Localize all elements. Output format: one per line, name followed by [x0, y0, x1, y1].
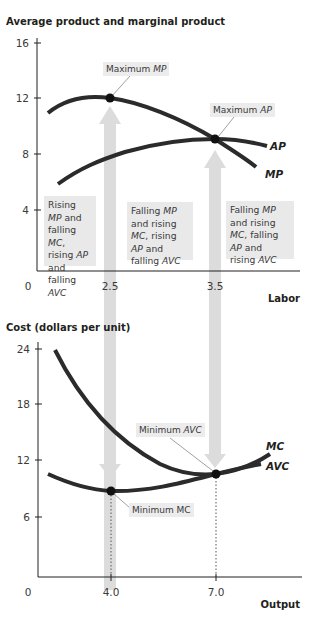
top-x-tick-3-5: 3.5: [207, 280, 224, 292]
min-mc-point: [107, 487, 116, 496]
max-ap-point: [211, 135, 220, 144]
bottom-y-ticks: [35, 349, 216, 581]
chart-canvas: Average product and marginal product 16 …: [0, 0, 323, 631]
bottom-x-tick-7-0: 7.0: [208, 586, 225, 598]
bottom-y-tick-24: 24: [17, 343, 31, 355]
link-arrows: [99, 106, 226, 590]
ap-curve-label: AP: [269, 140, 286, 152]
bottom-y-tick-6: 6: [23, 511, 30, 523]
bottom-x-zero: 0: [25, 586, 32, 598]
bottom-x-tick-4-0: 4.0: [103, 586, 120, 598]
region-box-left: Rising MP and falling MC, rising AP and …: [44, 196, 96, 266]
mp-curve-label: MP: [265, 168, 283, 180]
top-y-tick-4: 4: [22, 204, 29, 216]
top-y-tick-8: 8: [22, 148, 29, 160]
callout-maximum-mp: Maximum MP: [103, 62, 169, 76]
region-box-middle: Falling MP and rising MC, rising AP and …: [127, 202, 193, 260]
avc-curve-label: AVC: [265, 460, 290, 472]
callout-maximum-ap: Maximum AP: [210, 103, 275, 117]
arrow-up-head-right: [204, 150, 226, 168]
top-y-tick-12: 12: [16, 92, 29, 104]
bottom-chart-title: Cost (dollars per unit): [6, 322, 130, 333]
arrow-shaft-left: [104, 120, 116, 590]
bottom-y-tick-18: 18: [17, 398, 30, 410]
max-mp-point: [106, 94, 115, 103]
arrow-down-head-left: [99, 464, 121, 478]
min-avc-point: [212, 470, 221, 479]
arrow-shaft-right: [209, 165, 221, 440]
callout-minimum-mc: Minimum MC: [129, 503, 194, 517]
callout-minimum-avc: Minimum AVC: [136, 423, 205, 437]
top-chart-title: Average product and marginal product: [6, 16, 225, 27]
top-y-tick-16: 16: [16, 37, 30, 49]
bottom-y-tick-12: 12: [17, 454, 30, 466]
mc-curve-label: MC: [266, 440, 284, 452]
arrow-down-head-right: [204, 454, 226, 468]
mc-curve: [55, 350, 270, 475]
bottom-x-axis-label: Output: [261, 599, 301, 610]
top-x-zero: 0: [25, 280, 32, 292]
top-x-tick-2-5: 2.5: [102, 280, 119, 292]
max-mp-leader: [112, 76, 130, 96]
arrow-up-head-left: [99, 106, 121, 124]
avc-curve: [48, 464, 261, 491]
region-box-right: Falling MP and rising MC, falling AP and…: [226, 201, 294, 259]
max-ap-leader: [218, 117, 234, 137]
top-x-axis-label: Labor: [268, 293, 300, 304]
ap-curve: [58, 139, 267, 184]
